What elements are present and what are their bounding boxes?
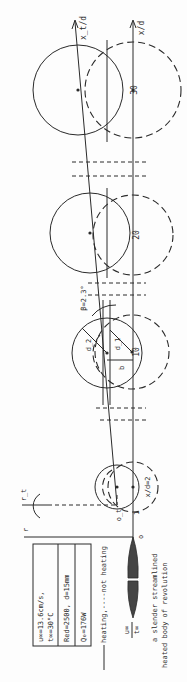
tick-one-label: 1 xyxy=(133,511,141,515)
x-axis-label: x/d xyxy=(137,21,146,36)
rt-axis-label: r_t xyxy=(20,489,28,502)
param-temperature: t∞=30°C xyxy=(47,612,55,642)
station-label-10: 10 xyxy=(132,347,141,357)
axis-break-3 xyxy=(96,408,146,420)
origin-label: o xyxy=(137,535,145,539)
label-b: b xyxy=(118,366,126,370)
label-d1: d_1 xyxy=(114,338,122,351)
freestream-u-label: u∞ xyxy=(123,625,131,634)
param-velocity: u∞=13.6cm/s, xyxy=(37,591,45,642)
xt-axis-label: x_t/d xyxy=(79,16,88,40)
r-axis-label: r xyxy=(22,528,30,532)
center-dot xyxy=(131,485,134,488)
caption-line-1: a slender streamlined xyxy=(151,553,159,642)
beta-label: β=2.3° xyxy=(80,285,88,310)
freestream-t-label: t∞ xyxy=(133,625,141,634)
axis-break-1 xyxy=(72,162,146,176)
label-d2: d_2 xyxy=(85,339,93,352)
origin-t-label: o_t xyxy=(115,509,123,522)
station-label-20: 20 xyxy=(132,230,141,240)
beta-arc xyxy=(92,305,116,316)
caption-line-2: heated body of revolution xyxy=(161,563,169,668)
xt-axis-line xyxy=(75,22,117,505)
param-heat: Q₀=176W xyxy=(80,612,88,642)
diagram-root: 30 20 d_2 d_1 b 10 β=2.3° x/d=2 o_t 1 o … xyxy=(0,0,187,682)
station-label-2: x/d=2 xyxy=(144,476,152,497)
axis-break-2 xyxy=(88,283,146,295)
center-dot xyxy=(76,88,79,91)
legend-text: heating,----not heating xyxy=(100,546,108,643)
heated-body xyxy=(128,537,138,618)
center-dot xyxy=(115,485,118,488)
station-label-30: 30 xyxy=(130,85,139,95)
center-dot xyxy=(88,231,91,234)
beta-small-arc xyxy=(33,494,40,518)
param-reynolds: Red=2500, d=15mm xyxy=(63,575,71,642)
plume-diagram: 30 20 d_2 d_1 b 10 β=2.3° x/d=2 o_t 1 o … xyxy=(0,0,187,682)
